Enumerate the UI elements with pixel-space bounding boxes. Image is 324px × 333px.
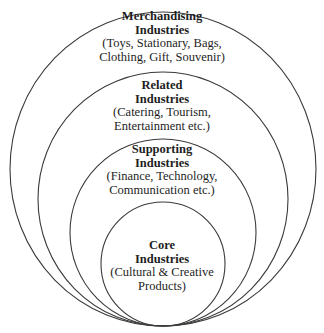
core-title-line2: Industries bbox=[0, 253, 324, 267]
supporting-desc-line1: (Finance, Technology, bbox=[0, 170, 324, 184]
merchandising-label: Merchandising Industries (Toys, Stationa… bbox=[0, 10, 324, 64]
related-desc-line2: Entertainment etc.) bbox=[0, 120, 324, 134]
merchandising-desc-line2: Clothing, Gift, Souvenir) bbox=[0, 51, 324, 65]
merchandising-title-line2: Industries bbox=[0, 24, 324, 38]
core-desc-line1: (Cultural & Creative bbox=[0, 266, 324, 280]
related-label: Related Industries (Catering, Tourism, E… bbox=[0, 79, 324, 133]
core-title-line1: Core bbox=[0, 239, 324, 253]
related-title-line2: Industries bbox=[0, 93, 324, 107]
supporting-title-line2: Industries bbox=[0, 157, 324, 171]
related-desc-line1: (Catering, Tourism, bbox=[0, 106, 324, 120]
supporting-label: Supporting Industries (Finance, Technolo… bbox=[0, 143, 324, 197]
merchandising-title-line1: Merchandising bbox=[0, 10, 324, 24]
supporting-title-line1: Supporting bbox=[0, 143, 324, 157]
supporting-desc-line2: Communication etc.) bbox=[0, 184, 324, 198]
merchandising-desc-line1: (Toys, Stationary, Bags, bbox=[0, 37, 324, 51]
core-desc-line2: Products) bbox=[0, 280, 324, 294]
related-title-line1: Related bbox=[0, 79, 324, 93]
core-label: Core Industries (Cultural & Creative Pro… bbox=[0, 239, 324, 293]
